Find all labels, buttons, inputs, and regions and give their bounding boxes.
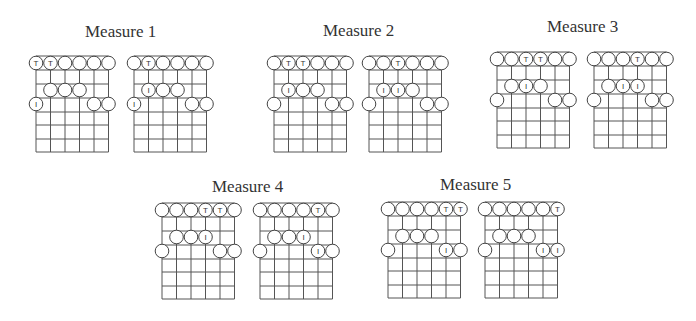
finger-position-marker [435,97,449,111]
marker-label: T [316,206,321,215]
marker-label: I [133,100,135,109]
marker-label: I [542,246,544,255]
finger-position-marker [185,56,199,70]
measure-2-diagram-2: TII [362,56,448,152]
finger-position-marker [522,202,536,216]
marker-label: T [555,205,560,214]
finger-position-marker [296,83,310,97]
finger-position-marker [156,56,170,70]
marker-label: T [286,59,291,68]
finger-position-marker [200,56,214,70]
finger-position-marker [425,229,439,243]
finger-position-marker [478,202,492,216]
marker-label: I [147,86,149,95]
finger-position-marker [267,56,281,70]
finger-position-marker [58,83,72,97]
finger-position-marker [587,52,601,66]
finger-position-marker [228,244,242,258]
finger-position-marker [73,83,87,97]
marker-label: I [302,233,304,242]
finger-position-marker [435,56,449,70]
measure-3-diagram-1: TTI [490,52,576,148]
measure-4-diagram-2: TII [253,203,339,299]
finger-position-marker [660,52,674,66]
finger-position-marker [253,203,267,217]
finger-position-marker [490,52,504,66]
finger-position-marker [268,230,282,244]
measure-5-diagram-2: TII [478,202,564,298]
finger-position-marker [311,83,325,97]
finger-position-marker [377,56,391,70]
finger-position-marker [156,83,170,97]
finger-position-marker [44,83,58,97]
finger-position-marker [282,230,296,244]
marker-label: T [396,59,401,68]
finger-position-marker [340,56,354,70]
marker-label: T [301,59,306,68]
marker-label: T [34,59,39,68]
finger-position-marker [170,230,184,244]
finger-position-marker [645,52,659,66]
marker-label: I [622,82,624,91]
finger-position-marker [505,79,519,93]
finger-position-marker [396,202,410,216]
finger-position-marker [213,244,227,258]
measure-3-diagram-2: TII [587,52,673,148]
marker-label: I [445,246,447,255]
marker-label: I [636,82,638,91]
finger-position-marker [563,52,577,66]
chord-diagram-sheet: Measure 1 Measure 2 Measure 3 Measure 4 … [0,0,696,321]
marker-label: T [203,206,208,215]
marker-label: I [287,86,289,95]
finger-position-marker [563,93,577,107]
marker-label: T [524,55,529,64]
finger-position-marker [102,97,116,111]
finger-position-marker [171,56,185,70]
measure-1-diagram-2: TII [127,56,213,152]
fretboard-diagrams: TTITIITTITIITTITIITTITIITTITII [0,0,696,321]
finger-position-marker [228,203,242,217]
finger-position-marker [505,52,519,66]
marker-label: T [48,59,53,68]
marker-label: T [635,55,640,64]
finger-position-marker [362,56,376,70]
measure-4-diagram-1: TTI [155,203,241,299]
marker-label: I [317,247,319,256]
marker-label: I [397,86,399,95]
marker-label: T [444,205,449,214]
finger-position-marker [602,79,616,93]
marker-label: I [525,82,527,91]
finger-position-marker [326,203,340,217]
finger-position-marker [410,229,424,243]
marker-label: I [204,233,206,242]
finger-position-marker [155,244,169,258]
finger-position-marker [87,56,101,70]
finger-position-marker [493,229,507,243]
finger-position-marker [454,243,468,257]
finger-position-marker [522,229,536,243]
finger-position-marker [616,52,630,66]
finger-position-marker [660,93,674,107]
marker-label: I [556,246,558,255]
finger-position-marker [340,97,354,111]
finger-position-marker [490,93,504,107]
measure-2-diagram-1: TTI [267,56,353,152]
finger-position-marker [200,97,214,111]
finger-position-marker [325,56,339,70]
finger-position-marker [297,203,311,217]
finger-position-marker [326,244,340,258]
finger-position-marker [381,243,395,257]
finger-position-marker [410,202,424,216]
marker-label: T [146,59,151,68]
finger-position-marker [253,244,267,258]
finger-position-marker [478,243,492,257]
finger-position-marker [420,97,434,111]
finger-position-marker [184,230,198,244]
finger-position-marker [58,56,72,70]
finger-position-marker [548,52,562,66]
finger-position-marker [127,56,141,70]
finger-position-marker [406,56,420,70]
finger-position-marker [171,83,185,97]
finger-position-marker [73,56,87,70]
finger-position-marker [507,202,521,216]
